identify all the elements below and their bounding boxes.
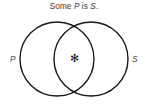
venn-circle-p	[20, 22, 94, 96]
venn-label-s: S	[132, 54, 138, 64]
intersection-asterisk-icon: ✻	[70, 52, 79, 64]
venn-label-p: P	[10, 54, 16, 64]
venn-svg-canvas: P S ✻	[0, 0, 148, 104]
venn-circle-s	[54, 22, 128, 96]
venn-diagram-figure: Some P is S. P S ✻	[0, 0, 148, 104]
